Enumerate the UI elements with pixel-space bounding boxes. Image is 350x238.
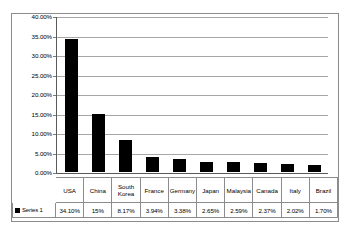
bar-south-korea[interactable] bbox=[119, 140, 131, 172]
bar-slot bbox=[247, 17, 274, 172]
y-axis-tick-label: 20.00% bbox=[32, 92, 52, 98]
bar-slot bbox=[58, 17, 85, 172]
value-cell: 2.65% bbox=[197, 203, 225, 218]
plot-area bbox=[56, 17, 328, 174]
bar-brazil[interactable] bbox=[308, 165, 320, 172]
bar-germany[interactable] bbox=[173, 159, 185, 172]
bar-slot bbox=[274, 17, 301, 172]
bar-china[interactable] bbox=[92, 114, 104, 173]
category-label-cell: France bbox=[141, 177, 169, 203]
value-cell: 1.70% bbox=[310, 203, 338, 218]
bar-malaysia[interactable] bbox=[227, 162, 239, 172]
value-cell: 34.10% bbox=[56, 203, 84, 218]
category-header-row: USAChinaSouthKoreaFranceGermanyJapanMala… bbox=[12, 177, 338, 203]
value-cell: 2.02% bbox=[282, 203, 310, 218]
bar-france[interactable] bbox=[146, 157, 158, 172]
bar-italy[interactable] bbox=[281, 164, 293, 172]
category-label-cell: Canada bbox=[253, 177, 281, 203]
category-label-cell: Italy bbox=[282, 177, 310, 203]
value-cell: 3.94% bbox=[141, 203, 169, 218]
value-cell: 2.37% bbox=[253, 203, 281, 218]
value-cell: 3.38% bbox=[169, 203, 197, 218]
bar-japan[interactable] bbox=[200, 162, 212, 172]
bar-slot bbox=[193, 17, 220, 172]
y-axis-tick-label: 5.00% bbox=[35, 151, 52, 157]
y-axis-tick-label: 35.00% bbox=[32, 34, 52, 40]
category-label-cell: China bbox=[84, 177, 112, 203]
category-label-cell: Germany bbox=[169, 177, 197, 203]
y-axis-tick-label: 15.00% bbox=[32, 112, 52, 118]
y-axis-tick-label: 25.00% bbox=[32, 73, 52, 79]
table-corner-cell bbox=[12, 177, 56, 203]
chart-data-table: USAChinaSouthKoreaFranceGermanyJapanMala… bbox=[12, 177, 338, 221]
y-axis-tick-label: 30.00% bbox=[32, 53, 52, 59]
category-label-cell: Malaysia bbox=[225, 177, 253, 203]
category-label-cell: USA bbox=[56, 177, 84, 203]
y-axis-tick-label: 0.00% bbox=[35, 170, 52, 176]
category-label-cell: SouthKorea bbox=[112, 177, 140, 203]
y-axis: 40.00%35.00%30.00%25.00%20.00%15.00%10.0… bbox=[12, 14, 55, 177]
bar-canada[interactable] bbox=[254, 163, 266, 172]
value-cell: 2.59% bbox=[225, 203, 253, 218]
bar-slot bbox=[85, 17, 112, 172]
value-cell: 15% bbox=[84, 203, 112, 218]
bar-usa[interactable] bbox=[65, 39, 77, 172]
plot-region: 40.00%35.00%30.00%25.00%20.00%15.00%10.0… bbox=[12, 14, 338, 177]
bar-slot bbox=[166, 17, 193, 172]
bar-slot bbox=[112, 17, 139, 172]
category-label-cell: Brazil bbox=[310, 177, 338, 203]
bar-slot bbox=[139, 17, 166, 172]
bars-layer bbox=[58, 17, 328, 172]
y-axis-tick-label: 40.00% bbox=[32, 14, 52, 20]
chart-frame: 40.00%35.00%30.00%25.00%20.00%15.00%10.0… bbox=[11, 13, 339, 222]
legend-series-label: Series 1 bbox=[22, 207, 43, 213]
y-axis-tick-label: 10.00% bbox=[32, 131, 52, 137]
series-value-row: Series 1 34.10%15%8.17%3.94%3.38%2.65%2.… bbox=[12, 203, 338, 218]
bar-slot bbox=[220, 17, 247, 172]
category-label-cell: Japan bbox=[197, 177, 225, 203]
value-cell: 8.17% bbox=[112, 203, 140, 218]
bar-slot bbox=[301, 17, 328, 172]
legend-entry: Series 1 bbox=[12, 203, 56, 218]
legend-swatch-icon bbox=[15, 208, 20, 213]
